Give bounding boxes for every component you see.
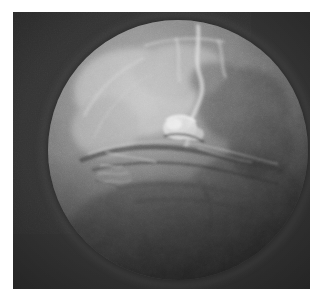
image-plate [13, 12, 310, 289]
planetary-disc [48, 20, 308, 280]
figure-page: Grayscale telescopic photograph of a pla… [0, 0, 324, 299]
figure-alt-text: Grayscale telescopic photograph of a pla… [0, 0, 1, 1]
disc-grain-overlay [48, 20, 308, 280]
figure-caption [0, 0, 1, 1]
